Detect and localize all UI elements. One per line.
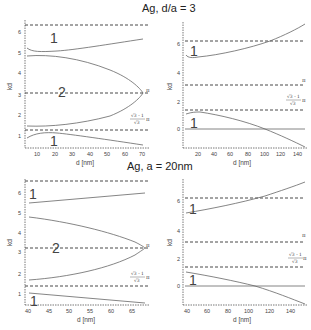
x-tick: 50 (66, 308, 72, 314)
x-tick: 30 (69, 151, 75, 157)
plot-bottom-right: 1 1 π √3 - 1 √3 π 0 2 4 6 kd 40 60 80 10… (166, 179, 307, 324)
y-tick: 1 (18, 291, 21, 297)
x-tick: 120 (276, 151, 285, 157)
region-label-1: 1 (190, 115, 198, 131)
y-tick: 5 (18, 50, 21, 56)
y-tick: 6 (18, 190, 21, 196)
x-tick: 60 (108, 308, 114, 314)
y-axis-label: kd (166, 83, 173, 90)
curve-upper-1 (27, 39, 143, 52)
frac-numerator: √3 - 1 (131, 271, 144, 276)
region-label-1: 1 (30, 293, 38, 309)
plot-top-right: 1 1 π √3 - 1 √3 π 0 2 4 6 kd 20 40 60 80… (166, 22, 307, 167)
y-tick: 6 (177, 198, 180, 204)
pi-label: π (302, 77, 306, 83)
x-tick: 80 (245, 151, 251, 157)
x-tick: 80 (225, 308, 231, 314)
region-label-2: 2 (52, 240, 60, 256)
x-axis-label: d [nm] (77, 316, 95, 324)
x-tick: 100 (260, 151, 269, 157)
pi-label: π (302, 232, 306, 238)
curve-region2 (27, 56, 143, 127)
curve-lower-1 (186, 272, 305, 304)
x-tick: 70 (139, 151, 145, 157)
x-tick: 40 (25, 308, 31, 314)
x-tick: 10 (34, 151, 40, 157)
x-tick: 40 (184, 308, 190, 314)
region-label-1: 1 (50, 30, 58, 46)
curve-upper-1 (29, 193, 145, 203)
pi-label: π (146, 274, 150, 280)
plot-top-left: 1 2 1 π √3 - 1 √3 π 1 2 3 4 5 6 kd 10 20… (6, 20, 150, 167)
region-label-1: 1 (50, 133, 58, 149)
x-tick: 40 (211, 151, 217, 157)
y-tick: 2 (18, 112, 21, 118)
y-tick: 5 (18, 210, 21, 216)
y-tick: 6 (177, 41, 180, 47)
plot-bottom-left: 1 2 1 π √3 - 1 √3 π 1 2 3 4 5 6 kd 40 45… (6, 179, 150, 324)
pi-label: π (146, 87, 150, 93)
pi-label: π (146, 116, 150, 122)
x-tick: 100 (244, 308, 253, 314)
x-tick: 60 (227, 151, 233, 157)
curve-lower-1 (27, 133, 143, 145)
x-tick: 40 (87, 151, 93, 157)
x-tick: 140 (293, 151, 302, 157)
frac-numerator: √3 - 1 (287, 94, 300, 99)
x-axis-label: d [nm] (76, 159, 94, 167)
figure-canvas: 1 2 1 π √3 - 1 √3 π 1 2 3 4 5 6 kd 10 20… (0, 0, 311, 330)
y-tick: 0 (177, 283, 180, 289)
region-label-1: 1 (29, 186, 37, 202)
pi-label: π (303, 255, 307, 261)
region-label-1: 1 (189, 272, 197, 288)
curve-lower-1 (186, 112, 305, 147)
y-tick: 3 (18, 249, 21, 255)
pi-label: π (146, 242, 150, 248)
x-axis-label: d [nm] (233, 316, 251, 324)
x-tick: 20 (195, 151, 201, 157)
x-tick: 60 (122, 151, 128, 157)
y-tick: 6 (18, 29, 21, 35)
curve-upper-1 (186, 182, 305, 213)
y-tick: 2 (177, 256, 180, 262)
x-tick: 65 (129, 308, 135, 314)
curve-lower-1 (29, 293, 145, 303)
frac-numerator: √3 - 1 (131, 113, 144, 118)
region-label-2: 2 (58, 84, 66, 100)
y-tick: 3 (18, 92, 21, 98)
x-tick: 20 (52, 151, 58, 157)
x-tick: 120 (265, 308, 274, 314)
frac-numerator: √3 - 1 (289, 252, 302, 257)
region-label-1: 1 (190, 43, 198, 59)
region-label-1: 1 (189, 201, 197, 217)
y-tick: 1 (18, 133, 21, 139)
y-axis-label: kd (166, 239, 173, 246)
x-tick: 55 (87, 308, 93, 314)
x-tick: 60 (204, 308, 210, 314)
y-tick: 0 (177, 126, 180, 132)
y-tick: 4 (18, 70, 21, 76)
y-tick: 2 (18, 271, 21, 277)
frac-denominator: √3 (134, 120, 140, 125)
frac-denominator: √3 (292, 259, 298, 264)
frac-denominator: √3 (134, 278, 140, 283)
x-tick: 140 (286, 308, 295, 314)
y-axis-label: kd (6, 239, 13, 246)
pi-label: π (302, 97, 306, 103)
curve-region2 (29, 217, 145, 280)
y-tick: 4 (177, 70, 180, 76)
x-tick: 45 (46, 308, 52, 314)
y-tick: 4 (177, 228, 180, 234)
x-axis-label: d [nm] (233, 159, 251, 167)
y-axis-label: kd (6, 83, 13, 90)
y-tick: 4 (18, 230, 21, 236)
y-tick: 2 (177, 99, 180, 105)
x-tick: 50 (104, 151, 110, 157)
frac-denominator: √3 (290, 101, 296, 106)
